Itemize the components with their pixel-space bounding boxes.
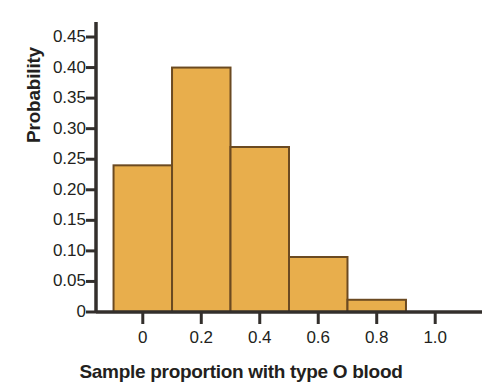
histogram-chart: Probability 00.050.100.150.200.250.300.3… (0, 0, 482, 387)
x-tick-label: 1.0 (405, 328, 465, 348)
x-tick-label: 0 (113, 328, 173, 348)
x-tick-label: 0.2 (171, 328, 231, 348)
x-tick-label: 0.8 (347, 328, 407, 348)
x-axis-title: Sample proportion with type O blood (0, 361, 482, 383)
x-axis-tick-labels: 00.20.40.60.81.0 (0, 0, 482, 387)
x-tick-label: 0.6 (288, 328, 348, 348)
x-tick-label: 0.4 (230, 328, 290, 348)
